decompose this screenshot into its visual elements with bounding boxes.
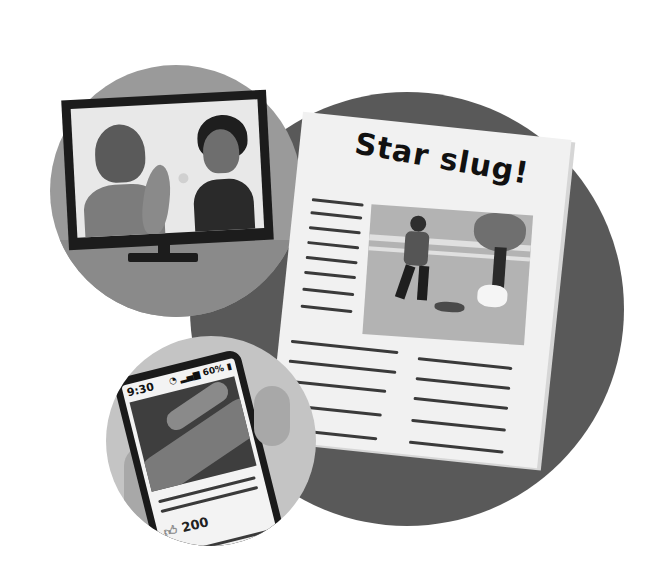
hand-right xyxy=(254,386,290,446)
text-line xyxy=(309,226,361,234)
text-line xyxy=(301,305,353,313)
wifi-icon: ◔ xyxy=(168,374,178,386)
text-line xyxy=(291,340,399,354)
text-line xyxy=(306,256,358,264)
phone-vignette: 9:30 ◔ ▂▄▆ 60% ▮ 👍︎ 200 xyxy=(106,336,316,546)
text-line xyxy=(307,241,359,249)
like-row[interactable]: 👍︎ 200 xyxy=(162,514,210,540)
boy-leg xyxy=(417,266,429,301)
reporter-body xyxy=(193,178,256,238)
boy-figure xyxy=(94,123,147,184)
text-line xyxy=(310,211,362,219)
newspaper-photo xyxy=(362,204,533,345)
tv-stand-base xyxy=(128,253,198,262)
television-icon xyxy=(61,90,274,251)
newspaper: Star slug! xyxy=(268,112,571,468)
tv-screen xyxy=(71,99,264,238)
boy-leg xyxy=(395,264,416,299)
battery-text: 60% xyxy=(202,363,225,378)
post-text-line xyxy=(202,529,271,546)
signal-icon: ▂▄▆ xyxy=(178,369,201,384)
tv-floor xyxy=(50,240,302,317)
text-line xyxy=(416,377,511,390)
text-line xyxy=(289,360,397,374)
boy-head xyxy=(410,215,427,232)
text-line xyxy=(411,419,506,432)
newspaper-headline: Star slug! xyxy=(352,126,531,191)
slug-figure xyxy=(139,163,173,236)
dog xyxy=(477,284,508,308)
boy-torso xyxy=(403,231,429,267)
text-line xyxy=(302,288,354,296)
text-line xyxy=(312,198,364,206)
text-line xyxy=(418,357,513,370)
slug-on-leash xyxy=(434,301,465,313)
likes-count: 200 xyxy=(180,514,210,535)
microphone-icon xyxy=(178,173,189,184)
thumbs-up-icon[interactable]: 👍︎ xyxy=(162,522,179,540)
tree-trunk xyxy=(492,247,507,288)
battery-icon: ▮ xyxy=(226,361,233,372)
text-line xyxy=(304,271,356,279)
text-line xyxy=(413,397,508,410)
text-line xyxy=(409,441,504,454)
